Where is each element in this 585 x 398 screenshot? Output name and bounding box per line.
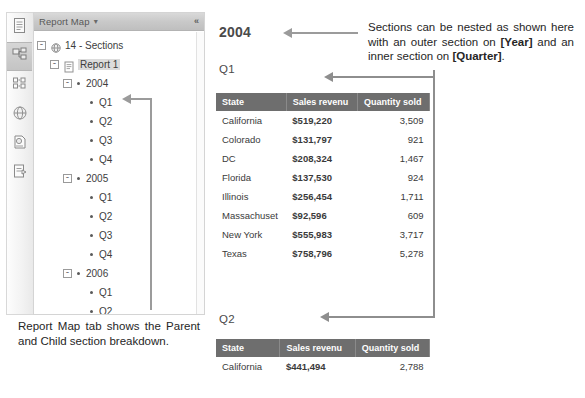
toolbar-button-data-summary[interactable] bbox=[7, 129, 32, 158]
tree-node[interactable]: Q3 bbox=[37, 226, 196, 245]
table-row: Colorado$131,797921 bbox=[216, 130, 430, 149]
cell-sales-revenue: $256,454 bbox=[286, 187, 357, 206]
tree-node[interactable]: Q2 bbox=[37, 302, 196, 314]
chevron-down-icon[interactable]: ▾ bbox=[94, 18, 98, 26]
arrow-year-head bbox=[283, 28, 292, 38]
side-icon-toolbar bbox=[6, 12, 33, 315]
cell-quantity-sold: 5,278 bbox=[357, 244, 429, 263]
bullet-icon bbox=[90, 120, 93, 123]
bullet-icon bbox=[90, 139, 93, 142]
q1-data-table: State Sales revenu Quantity sold Califor… bbox=[216, 93, 430, 263]
cell-sales-revenue: $131,797 bbox=[286, 130, 357, 149]
toolbar-button-report-map[interactable] bbox=[7, 42, 32, 71]
annotation-bold-year: [Year] bbox=[501, 36, 533, 48]
cell-quantity-sold: 924 bbox=[357, 168, 429, 187]
cell-state: California bbox=[216, 357, 280, 376]
section-heading-q1: Q1 bbox=[219, 63, 235, 75]
bullet-icon bbox=[90, 253, 93, 256]
bullet-icon bbox=[77, 177, 80, 180]
q2-data-table: State Sales revenu Quantity sold Califor… bbox=[216, 339, 430, 376]
table-row: Florida$137,530924 bbox=[216, 168, 430, 187]
globe-icon bbox=[50, 40, 62, 52]
bullet-icon bbox=[90, 291, 93, 294]
tree-toggle[interactable]: - bbox=[63, 269, 72, 278]
tree-node[interactable]: Q3 bbox=[37, 131, 196, 150]
globe-icon bbox=[12, 105, 28, 125]
bullet-icon bbox=[77, 82, 80, 85]
document-icon bbox=[12, 17, 27, 38]
arrow-year-line bbox=[292, 32, 358, 34]
cell-sales-revenue: $758,796 bbox=[286, 244, 357, 263]
cell-sales-revenue: $441,494 bbox=[280, 357, 355, 376]
tree-node[interactable]: Q1 bbox=[37, 188, 196, 207]
tree-node-label: Q2 bbox=[99, 211, 112, 222]
tree-node[interactable]: -2005 bbox=[37, 169, 196, 188]
tree-node-label: 2005 bbox=[86, 173, 108, 184]
tree-node[interactable]: -2006 bbox=[37, 264, 196, 283]
tree-toggle[interactable]: - bbox=[37, 41, 46, 50]
table-header-row: State Sales revenu Quantity sold bbox=[216, 339, 430, 357]
table-row: Texas$758,7965,278 bbox=[216, 244, 430, 263]
annotation-bold-quarter: [Quarter] bbox=[452, 50, 501, 62]
tree-node-label: Q4 bbox=[99, 154, 112, 165]
cell-quantity-sold: 3,509 bbox=[357, 111, 429, 130]
cell-state: Florida bbox=[216, 168, 286, 187]
tree-node[interactable]: Q2 bbox=[37, 112, 196, 131]
collapse-panel-button[interactable]: « bbox=[194, 17, 199, 26]
tree-node[interactable]: Q4 bbox=[37, 150, 196, 169]
column-header-state[interactable]: State bbox=[216, 93, 286, 111]
arrow-q2-line bbox=[329, 316, 434, 318]
arrow-q1-head bbox=[324, 72, 333, 82]
tree-node-label: Q4 bbox=[99, 249, 112, 260]
toolbar-button-document[interactable] bbox=[7, 13, 32, 42]
arrow-q1-line bbox=[333, 76, 434, 78]
table-row: Massachuset$92,596609 bbox=[216, 206, 430, 225]
tree-node[interactable]: -14 - Sections bbox=[37, 36, 196, 55]
report-map-pane: Report Map ▾ « -14 - Sections-Report 1-2… bbox=[6, 12, 205, 315]
tree-node[interactable]: Q1 bbox=[37, 93, 196, 112]
column-header-sales-revenue[interactable]: Sales revenu bbox=[280, 339, 355, 357]
table-row: California$441,4942,788 bbox=[216, 357, 430, 376]
tree-node-label: Q1 bbox=[99, 192, 112, 203]
cell-quantity-sold: 1,711 bbox=[357, 187, 429, 206]
column-header-sales-revenue[interactable]: Sales revenu bbox=[286, 93, 357, 111]
report-map-icon bbox=[12, 47, 28, 67]
bullet-icon bbox=[77, 272, 80, 275]
toolbar-button-input-controls[interactable] bbox=[7, 71, 32, 100]
cell-state: Colorado bbox=[216, 130, 286, 149]
tree-node-label: Q3 bbox=[99, 135, 112, 146]
tree-node[interactable]: Q4 bbox=[37, 245, 196, 264]
section-tree[interactable]: -14 - Sections-Report 1-2004Q1Q2Q3Q4-200… bbox=[34, 32, 196, 314]
toolbar-button-web-service[interactable] bbox=[7, 100, 32, 129]
panel-scrollbar[interactable] bbox=[196, 32, 204, 314]
tree-node-label: 2004 bbox=[86, 78, 108, 89]
cell-quantity-sold: 609 bbox=[357, 206, 429, 225]
tree-node-label: Report 1 bbox=[78, 59, 120, 70]
tree-toggle[interactable]: - bbox=[50, 60, 59, 69]
tree-node[interactable]: Q2 bbox=[37, 207, 196, 226]
cell-sales-revenue: $519,220 bbox=[286, 111, 357, 130]
report-map-panel: Report Map ▾ « -14 - Sections-Report 1-2… bbox=[33, 12, 205, 315]
panel-header[interactable]: Report Map ▾ « bbox=[34, 13, 204, 31]
report-icon bbox=[63, 59, 75, 71]
cell-quantity-sold: 921 bbox=[357, 130, 429, 149]
column-header-state[interactable]: State bbox=[216, 339, 280, 357]
tree-toggle[interactable]: - bbox=[63, 174, 72, 183]
column-header-quantity-sold[interactable]: Quantity sold bbox=[357, 93, 429, 111]
edit-report-icon bbox=[12, 163, 28, 183]
tree-toggle[interactable]: - bbox=[63, 79, 72, 88]
bullet-icon bbox=[90, 196, 93, 199]
cell-state: DC bbox=[216, 149, 286, 168]
column-header-quantity-sold[interactable]: Quantity sold bbox=[355, 339, 429, 357]
tree-node[interactable]: -Report 1 bbox=[37, 55, 196, 74]
cell-sales-revenue: $92,596 bbox=[286, 206, 357, 225]
tree-node[interactable]: Q1 bbox=[37, 283, 196, 302]
input-controls-icon bbox=[12, 76, 28, 95]
report-map-caption: Report Map tab shows the Parent and Chil… bbox=[18, 319, 200, 348]
arrow-tree-q1-line bbox=[131, 98, 152, 100]
tree-node-label: Q2 bbox=[99, 306, 112, 314]
toolbar-button-edit-report[interactable] bbox=[7, 158, 32, 187]
tree-node[interactable]: -2004 bbox=[37, 74, 196, 93]
section-heading-q2: Q2 bbox=[219, 313, 235, 325]
tree-node-label: 14 - Sections bbox=[65, 40, 123, 51]
